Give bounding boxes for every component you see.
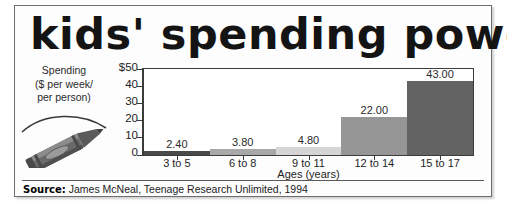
y-tick-label-10: 10 — [125, 130, 138, 141]
chart-title: kids' spending power — [30, 8, 490, 60]
bar-12-to-14[interactable] — [341, 117, 407, 155]
bar-value-9-to-11: 4.80 — [276, 134, 342, 146]
bar-value-15-to-17: 43.00 — [407, 68, 473, 80]
chart-figure: kids' spending power Spending ($ per wee… — [0, 0, 507, 212]
y-tick-label-20: 20 — [125, 113, 138, 124]
swoosh-arc-icon — [22, 116, 106, 132]
x-axis-title: Ages (years) — [143, 168, 474, 180]
source-line: Source: James McNeal, Teenage Research U… — [23, 183, 308, 195]
bars-container: 2.40 3.80 4.80 22.00 43.00 — [144, 69, 473, 155]
source-label: Source: — [23, 184, 66, 195]
bar-6-to-8[interactable] — [210, 149, 276, 156]
y-axis-caption-line-1: Spending — [18, 64, 110, 78]
source-divider — [22, 180, 484, 181]
bar-15-to-17[interactable] — [407, 81, 473, 155]
bar-value-12-to-14: 22.00 — [341, 104, 407, 116]
y-tick-label-40: 40 — [125, 79, 138, 90]
bar-value-6-to-8: 3.80 — [210, 136, 276, 148]
y-axis-caption: Spending ($ per week/ per person) — [18, 64, 110, 105]
y-tick-label-30: 30 — [125, 96, 138, 107]
y-axis-line — [142, 68, 143, 156]
y-axis-ticks: $50 40 30 20 10 0 — [98, 62, 138, 162]
bar-9-to-11[interactable] — [276, 147, 342, 155]
y-axis-caption-line-2: ($ per week/ — [18, 78, 110, 92]
y-axis-caption-line-3: per person) — [18, 91, 110, 105]
source-text: James McNeal, Teenage Research Unlimited… — [69, 183, 308, 195]
bar-value-3-to-5: 2.40 — [144, 138, 210, 150]
bar-3-to-5[interactable] — [144, 151, 210, 155]
y-tick-label-0: 0 — [132, 147, 138, 158]
crayon-icon — [25, 122, 107, 168]
y-tick-label-50: $50 — [119, 62, 138, 73]
